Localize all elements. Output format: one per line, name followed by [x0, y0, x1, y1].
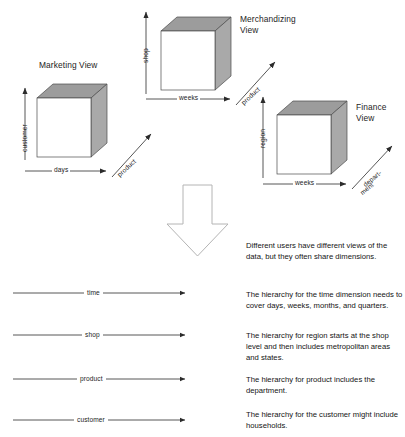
cube-title-merchandizing-line1: Merchandizing	[240, 14, 296, 25]
cube-merchandizing	[161, 17, 231, 90]
axis-label-finance-vertical: region	[258, 129, 269, 148]
big-down-arrow-icon	[167, 185, 228, 256]
dimension-arrow-label-time: time	[84, 288, 103, 299]
cube-title-finance-line2: View	[356, 113, 374, 124]
axis-label-merchandizing-vertical: shop	[141, 48, 152, 63]
axis-label-finance-horizontal: weeks	[293, 178, 316, 189]
dimension-arrow-label-product: product	[77, 374, 106, 385]
dimension-arrow-label-shop: shop	[82, 330, 103, 341]
diagram-canvas: Marketing View customer days product Mer…	[0, 0, 405, 437]
dimension-arrow-label-customer: customer	[74, 415, 108, 426]
cube-title-merchandizing-line2: View	[240, 25, 258, 36]
axis-label-merchandizing-horizontal: weeks	[177, 93, 200, 104]
note-paragraph-customer-hierarchy: The hierarchy for the customer might inc…	[246, 409, 404, 431]
axis-label-marketing-vertical: customer	[20, 124, 31, 152]
note-paragraph-shared-dimensions: Different users have different views of …	[246, 240, 404, 262]
cube-finance	[277, 101, 347, 174]
axis-label-marketing-horizontal: days	[52, 165, 70, 176]
note-paragraph-product-hierarchy: The hierarchy for product includes the d…	[246, 374, 404, 396]
cube-title-marketing: Marketing View	[39, 60, 98, 71]
note-paragraph-region-hierarchy: The hierarchy for region starts at the s…	[246, 330, 404, 364]
cube-title-finance-line1: Finance	[356, 102, 387, 113]
cube-marketing	[37, 84, 107, 157]
note-paragraph-time-hierarchy: The hierarchy for the time dimension nee…	[246, 289, 404, 311]
